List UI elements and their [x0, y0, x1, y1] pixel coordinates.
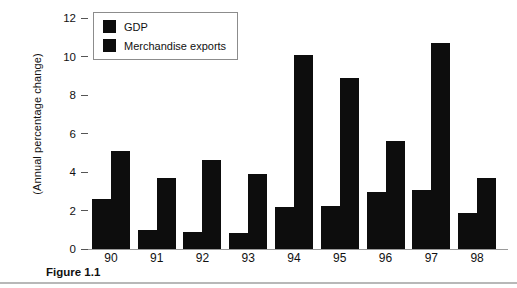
y-tick-mark — [81, 56, 88, 57]
x-tick-label-96: 96 — [363, 251, 409, 265]
legend-label: Merchandise exports — [124, 40, 226, 52]
y-tick-mark — [81, 172, 88, 173]
figure-caption-block: Figure 1.1 — [0, 266, 517, 288]
y-tick-label: 6 — [62, 127, 76, 141]
bar-merchandise-exports-96 — [386, 141, 405, 249]
bar-merchandise-exports-95 — [340, 78, 359, 249]
bar-merchandise-exports-94 — [294, 55, 313, 249]
bar-gdp-92 — [183, 232, 202, 249]
x-axis-line — [88, 249, 508, 250]
bar-group-95 — [317, 18, 363, 249]
y-tick-0: 0 — [62, 242, 88, 256]
bar-merchandise-exports-98 — [477, 178, 496, 249]
bar-gdp-91 — [138, 230, 157, 249]
y-tick-8: 8 — [62, 88, 88, 102]
y-tick-mark — [81, 249, 88, 250]
chart-legend: GDPMerchandise exports — [93, 12, 238, 60]
figure-container: (Annual percentage change) 024681012 909… — [0, 0, 517, 288]
bar-merchandise-exports-90 — [111, 151, 130, 249]
y-tick-6: 6 — [62, 127, 88, 141]
x-tick-label-97: 97 — [408, 251, 454, 265]
y-tick-label: 12 — [62, 11, 76, 25]
y-tick-4: 4 — [62, 165, 88, 179]
y-tick-label: 4 — [62, 165, 76, 179]
y-axis-ticks: 024681012 — [50, 0, 88, 262]
y-tick-mark — [81, 18, 88, 19]
bar-group-94 — [271, 18, 317, 249]
x-axis-labels: 909192939495969798 — [88, 251, 500, 267]
legend-item-gdp: GDP — [103, 20, 226, 33]
x-tick-label-95: 95 — [317, 251, 363, 265]
y-tick-2: 2 — [62, 204, 88, 218]
bar-chart: (Annual percentage change) 024681012 909… — [0, 0, 517, 262]
x-tick-label-98: 98 — [454, 251, 500, 265]
bar-group-98 — [454, 18, 500, 249]
caption-divider — [0, 282, 517, 284]
legend-swatch-icon — [103, 20, 116, 33]
y-tick-12: 12 — [62, 11, 88, 25]
y-tick-mark — [81, 210, 88, 211]
bar-merchandise-exports-91 — [157, 178, 176, 249]
bar-group-96 — [363, 18, 409, 249]
bar-gdp-90 — [92, 199, 111, 249]
legend-swatch-icon — [103, 39, 116, 52]
y-tick-label: 0 — [62, 242, 76, 256]
y-tick-mark — [81, 133, 88, 134]
bar-gdp-93 — [229, 233, 248, 249]
legend-label: GDP — [124, 21, 148, 33]
figure-caption: Figure 1.1 — [46, 266, 100, 278]
bar-gdp-95 — [321, 206, 340, 249]
x-tick-label-90: 90 — [88, 251, 134, 265]
bar-merchandise-exports-92 — [202, 160, 221, 249]
y-axis-title: (Annual percentage change) — [31, 9, 43, 239]
bar-group-97 — [408, 18, 454, 249]
bar-gdp-98 — [458, 213, 477, 249]
legend-item-merchandise-exports: Merchandise exports — [103, 39, 226, 52]
y-tick-label: 8 — [62, 88, 76, 102]
y-tick-10: 10 — [62, 50, 88, 64]
bar-merchandise-exports-97 — [431, 43, 450, 249]
bar-gdp-96 — [367, 192, 386, 249]
bar-merchandise-exports-93 — [248, 174, 267, 249]
x-tick-label-93: 93 — [225, 251, 271, 265]
y-tick-mark — [81, 95, 88, 96]
x-tick-label-91: 91 — [134, 251, 180, 265]
x-tick-label-94: 94 — [271, 251, 317, 265]
y-tick-label: 2 — [62, 204, 76, 218]
y-tick-label: 10 — [62, 50, 76, 64]
bar-gdp-97 — [412, 190, 431, 249]
x-tick-label-92: 92 — [180, 251, 226, 265]
bar-gdp-94 — [275, 207, 294, 249]
